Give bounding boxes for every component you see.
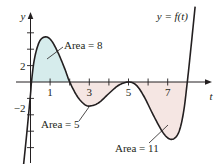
area-label-1: Area = 8 — [64, 39, 103, 51]
area-label-3: Area = 11 — [115, 142, 159, 154]
x-tick-label: 5 — [126, 86, 132, 98]
x-tick-label: 1 — [47, 86, 53, 98]
leader-line-area-5 — [79, 107, 89, 121]
chart: 13572−2 y t y = f(t) Area = 8 Area = 5 A… — [0, 0, 217, 167]
curve-label: y = f(t) — [156, 10, 189, 23]
area-label-2: Area = 5 — [41, 118, 80, 130]
x-tick-label: 3 — [87, 86, 93, 98]
x-axis-label: t — [209, 90, 213, 102]
y-axis-label: y — [20, 10, 26, 22]
y-axis-arrow-icon — [28, 12, 34, 19]
y-tick-label: −2 — [14, 102, 26, 114]
t-axis-arrow-icon — [205, 79, 212, 85]
y-tick-label: 2 — [20, 60, 26, 72]
x-tick-label: 7 — [165, 86, 171, 98]
